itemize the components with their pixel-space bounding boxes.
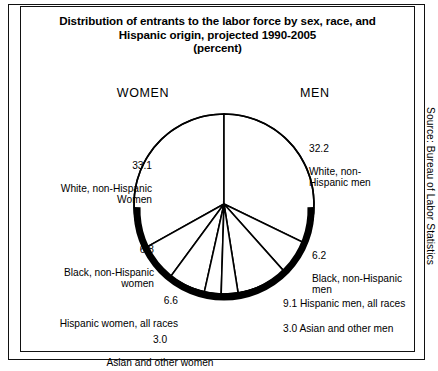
figure-root: Distribution of entrants to the labor fo… xyxy=(0,0,438,371)
text-asian-men: 3.0 Asian and other men xyxy=(283,323,433,335)
title-line-1: Distribution of entrants to the labor fo… xyxy=(24,14,411,28)
source-note: Source: Bureau of Labor Statistics xyxy=(425,107,436,265)
value-hispanic-women: 6.6 xyxy=(24,295,178,307)
value-black-women: 6.8 xyxy=(22,244,154,256)
text-asian-women: Asian and other women xyxy=(84,357,236,369)
value-white-men: 32.2 xyxy=(309,143,421,155)
label-asian-other-men: 3.0 Asian and other men xyxy=(283,311,433,346)
men-heading: MEN xyxy=(300,86,370,100)
value-asian-women: 3.0 xyxy=(84,334,236,346)
label-asian-other-women: 3.0 Asian and other women xyxy=(84,322,236,371)
value-black-men: 6.2 xyxy=(312,250,422,262)
title-line-2: Hispanic origin, projected 1990-2005 xyxy=(24,28,411,42)
chart-title: Distribution of entrants to the labor fo… xyxy=(24,14,411,55)
text-white-men: White, non- Hispanic men xyxy=(309,166,421,189)
value-white-women: 33.1 xyxy=(18,160,152,172)
label-white-non-hispanic-men: 32.2 White, non- Hispanic men xyxy=(309,131,421,201)
title-line-3: (percent) xyxy=(24,41,411,55)
label-white-non-hispanic-women: 33.1 White, non-Hispanic Women xyxy=(18,148,152,218)
women-heading: WOMEN xyxy=(98,86,188,100)
text-hispanic-men: 9.1 Hispanic men, all races xyxy=(283,298,433,310)
text-white-women: White, non-Hispanic Women xyxy=(18,183,152,206)
